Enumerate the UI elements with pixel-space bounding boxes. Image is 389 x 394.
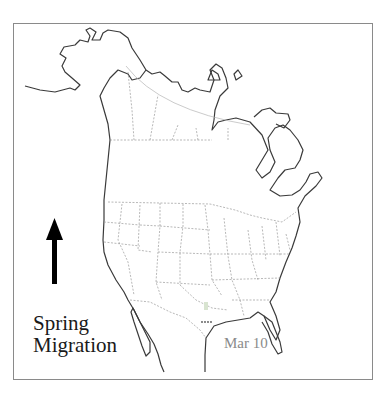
title-line-1: Spring [33, 312, 117, 334]
observation-marker [201, 302, 212, 323]
up-arrow-icon [46, 218, 63, 284]
us-canada-border [108, 202, 296, 222]
canada-border-north [126, 66, 250, 125]
map-title: Spring Migration [33, 312, 117, 356]
province-borders [110, 72, 228, 140]
date-label: Mar 10 [224, 335, 268, 352]
us-mexico-border [130, 300, 206, 338]
hudson-bay-coast [254, 108, 290, 128]
us-state-borders [104, 203, 290, 316]
title-line-2: Migration [33, 334, 117, 356]
